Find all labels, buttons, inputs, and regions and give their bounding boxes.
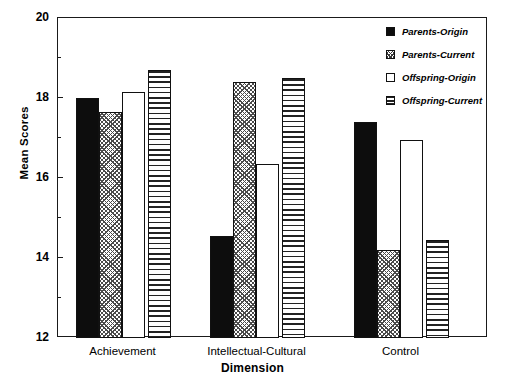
y-tick-label: 12 [19, 330, 49, 344]
x-group-label: Intellectual-Cultural [207, 345, 305, 357]
y-tick-minor [57, 217, 61, 218]
legend-swatch-icon [386, 96, 395, 105]
legend-swatch-icon [386, 50, 395, 59]
y-tick-label: 16 [19, 170, 49, 184]
y-tick-minor [57, 57, 61, 58]
bar [210, 236, 233, 338]
bar [354, 122, 377, 338]
y-tick-minor [57, 297, 61, 298]
bar [122, 92, 145, 338]
y-tick-major [57, 257, 63, 258]
legend: Parents-OriginParents-CurrentOffspring-O… [386, 20, 490, 112]
x-group-label: Achievement [89, 345, 155, 357]
bar [233, 82, 256, 338]
x-axis-title: Dimension [0, 361, 505, 375]
bar [426, 240, 449, 338]
bar [400, 140, 423, 338]
bar [256, 164, 279, 338]
legend-label: Parents-Current [402, 49, 474, 60]
bar [282, 78, 305, 338]
legend-label: Parents-Origin [402, 26, 468, 37]
y-tick-label: 20 [19, 10, 49, 24]
legend-item: Offspring-Current [386, 89, 490, 112]
bar [99, 112, 122, 338]
y-tick-label: 18 [19, 90, 49, 104]
bar [76, 98, 99, 338]
y-tick-major [57, 97, 63, 98]
bar [377, 250, 400, 338]
legend-label: Offspring-Origin [402, 72, 476, 83]
y-tick-major [57, 177, 63, 178]
bar [148, 70, 171, 338]
legend-item: Parents-Current [386, 43, 490, 66]
legend-swatch-icon [386, 27, 395, 36]
y-tick-label: 14 [19, 250, 49, 264]
legend-item: Parents-Origin [386, 20, 490, 43]
legend-label: Offspring-Current [402, 95, 482, 106]
x-group-label: Control [382, 345, 419, 357]
legend-swatch-icon [386, 73, 395, 82]
legend-item: Offspring-Origin [386, 66, 490, 89]
y-tick-minor [57, 137, 61, 138]
bar-chart-figure: Mean Scores 1214161820 AchievementIntell… [0, 0, 505, 382]
